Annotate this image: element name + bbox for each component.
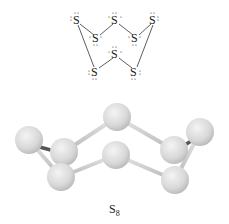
- sulfur-atom-5: S: [131, 31, 138, 45]
- lewis-structure: S S S S S S S S: [70, 12, 158, 79]
- lewis-bonds: [78, 24, 153, 68]
- svg-text:S: S: [91, 65, 98, 79]
- sulfur-atom-3: S: [149, 13, 156, 27]
- ball-atom-3: [103, 103, 131, 131]
- ball-and-stick-model: [15, 103, 214, 194]
- svg-text:S: S: [130, 65, 137, 79]
- svg-text:S8: S8: [109, 202, 120, 218]
- ball-atom-4: [186, 118, 214, 146]
- svg-text:S: S: [92, 31, 99, 45]
- lewis-atoms: S S S S S S S S: [73, 13, 156, 79]
- ball-atom-7: [47, 163, 75, 191]
- svg-text:S: S: [111, 47, 118, 61]
- sulfur-atom-8: S: [130, 65, 137, 79]
- ball-atom-2: [50, 138, 78, 166]
- sulfur-atom-2: S: [111, 13, 118, 27]
- ball-atom-1: [15, 126, 43, 154]
- sulfur-atom-4: S: [92, 31, 99, 45]
- sulfur-atom-1: S: [73, 13, 80, 27]
- ball-atom-6: [102, 141, 130, 169]
- svg-text:S: S: [131, 31, 138, 45]
- sulfur-atom-7: S: [91, 65, 98, 79]
- ball-atom-8: [161, 166, 189, 194]
- svg-text:S: S: [149, 13, 156, 27]
- s8-figure: S S S S S S S S: [0, 0, 229, 224]
- ball-atom-5: [160, 136, 188, 164]
- svg-text:S: S: [111, 13, 118, 27]
- sulfur-atom-6: S: [111, 47, 118, 61]
- formula-caption: S8: [109, 202, 120, 218]
- svg-text:S: S: [73, 13, 80, 27]
